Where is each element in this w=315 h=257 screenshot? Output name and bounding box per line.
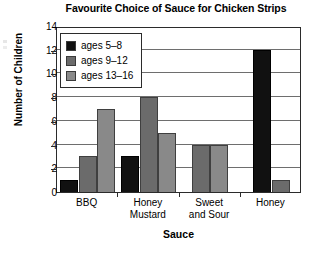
bar: [140, 97, 158, 192]
bar: [60, 180, 78, 192]
bar-chart-figure: Favourite Choice of Sauce for Chicken St…: [0, 0, 315, 257]
legend-label: ages 9–12: [81, 56, 128, 66]
bar: [158, 133, 176, 192]
y-tick-mark: [51, 74, 56, 75]
legend-label: ages 5–8: [81, 41, 122, 51]
x-axis-group-label: Honey Mustard: [117, 197, 178, 220]
bar: [97, 109, 115, 192]
scan-artifact: [3, 40, 7, 56]
legend-item: ages 9–12: [66, 53, 133, 68]
legend-item: ages 13–16: [66, 68, 133, 83]
y-tick-mark: [51, 146, 56, 147]
x-axis-group-label: BBQ: [56, 197, 117, 209]
y-tick-mark: [51, 122, 56, 123]
x-axis-title: Sauce: [56, 228, 301, 240]
bar: [192, 145, 210, 192]
legend-swatch-icon: [66, 71, 76, 81]
y-tick-mark: [51, 98, 56, 99]
x-axis-group-label: Honey: [240, 197, 301, 209]
x-axis-group-label: Sweet and Sour: [179, 197, 240, 220]
legend-label: ages 13–16: [81, 71, 133, 81]
bar: [79, 156, 97, 192]
bar: [272, 180, 290, 192]
y-tick-label: 0: [35, 188, 57, 198]
y-tick-mark: [51, 51, 56, 52]
bar: [121, 156, 139, 192]
chart-title: Favourite Choice of Sauce for Chicken St…: [40, 2, 312, 14]
y-axis-title: Number of Children: [13, 15, 24, 145]
legend-swatch-icon: [66, 41, 76, 51]
legend-swatch-icon: [66, 56, 76, 66]
bar: [210, 145, 228, 192]
y-tick-label: 14: [35, 22, 57, 32]
legend-item: ages 5–8: [66, 38, 133, 53]
legend: ages 5–8ages 9–12ages 13–16: [60, 33, 142, 88]
y-tick-mark: [51, 169, 56, 170]
bar: [253, 50, 271, 192]
